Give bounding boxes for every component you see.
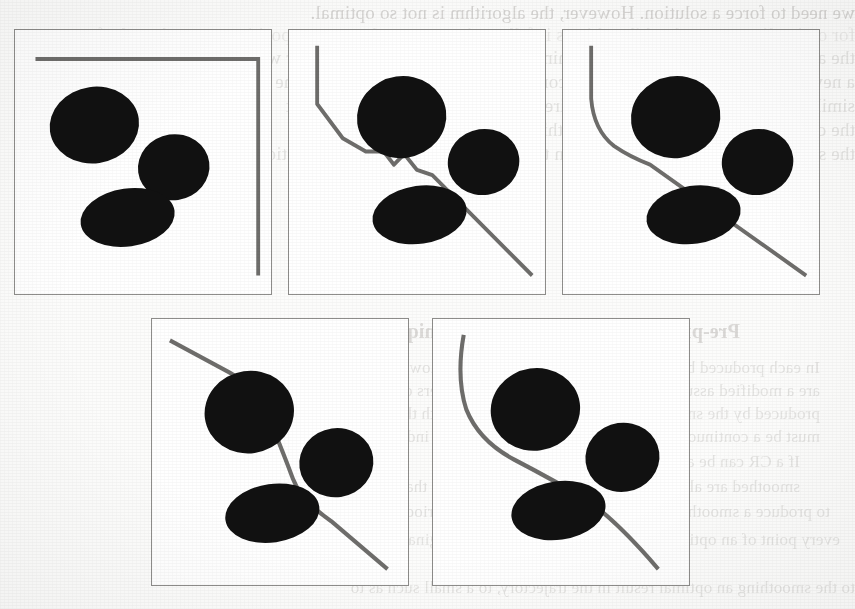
obstacle-middle-right [444,124,524,200]
obstacle-upper-left [626,70,726,164]
obstacle-lower-left [508,475,610,547]
figure-panel-1 [14,29,272,295]
obstacle-upper-left [45,81,144,170]
figure-panel-4 [151,318,409,586]
obstacles-panel-1 [45,81,214,253]
panel-2-canvas [289,30,545,294]
obstacles-panel-4 [199,365,377,549]
panel-3-canvas [563,30,819,294]
figure-panel-2 [288,29,546,295]
obstacle-lower-left [222,477,324,549]
obstacle-middle-right [718,124,798,200]
panel-5-canvas [433,319,689,585]
obstacle-upper-left [199,365,299,460]
figure-panel-5 [432,318,690,586]
ghost-text-line: we need to force a solution. However, th… [310,2,855,24]
figure-panel-3 [562,29,820,295]
obstacle-lower-left [643,179,745,250]
obstacle-upper-left [486,362,586,457]
obstacles-panel-5 [486,362,664,546]
obstacle-middle-right [581,418,664,497]
panel-1-canvas [15,30,271,294]
obstacle-lower-left [369,179,471,250]
obstacles-panel-3 [626,70,798,250]
obstacles-panel-2 [352,70,524,250]
scanned-page: we need to force a solution. However, th… [0,0,855,609]
panel-4-canvas [152,319,408,585]
